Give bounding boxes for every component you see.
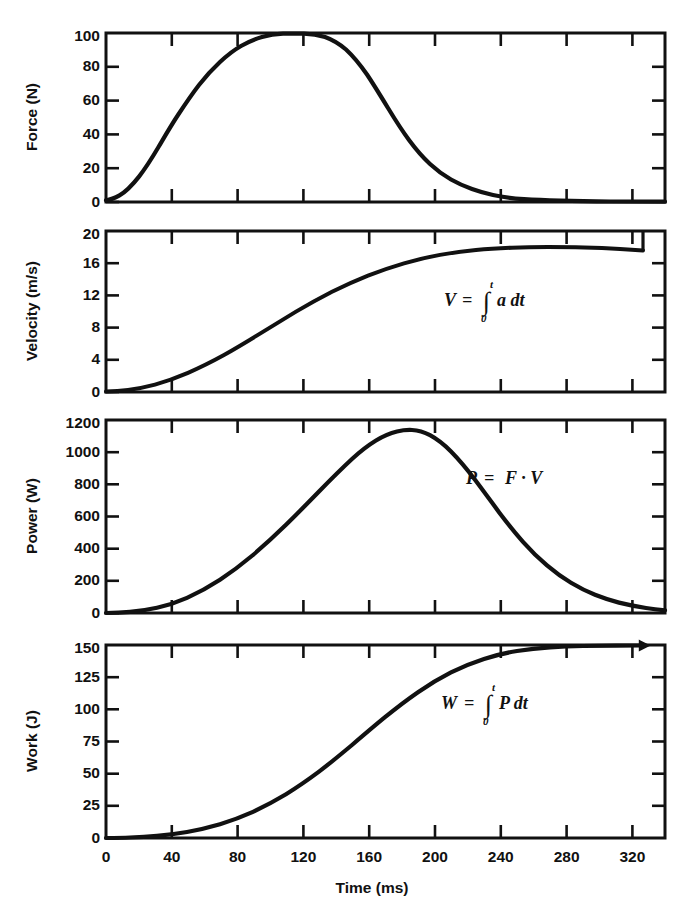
panel-power-ytick-400: 400 <box>74 539 100 556</box>
panel-velocity-x-ticks <box>172 231 633 392</box>
panel-work-ytick-75: 75 <box>83 732 101 749</box>
panel-power-frame <box>106 420 665 613</box>
work-equation: W = ∫ t 0 P dt <box>441 681 529 727</box>
velocity-eq-lower-limit: 0 <box>481 312 487 324</box>
panel-force-ytick-0: 0 <box>91 193 100 210</box>
panel-power-x-ticks <box>172 420 633 613</box>
x-axis-title: Time (ms) <box>336 879 409 896</box>
panel-force-y-ticks <box>106 67 665 202</box>
work-eq-upper-limit: t <box>492 681 496 693</box>
panel-velocity-ytick-4: 4 <box>91 350 100 367</box>
velocity-eq-lhs: V <box>444 290 458 310</box>
panel-power-ylabel: Power (W) <box>23 478 40 554</box>
panel-work-ytick-50: 50 <box>83 764 100 781</box>
xtick-240: 240 <box>488 848 514 865</box>
four-panel-plot-svg: 0 20 40 60 80 100 Force (N) <box>0 0 699 920</box>
panel-power: 0 200 400 600 800 1000 1200 Power (W) P … <box>23 414 665 621</box>
panel-velocity-ytick-0: 0 <box>91 383 100 400</box>
xtick-0: 0 <box>102 848 111 865</box>
power-eq-equals: = <box>484 468 494 488</box>
panel-force: 0 20 40 60 80 100 Force (N) <box>23 27 665 210</box>
work-eq-lower-limit: 0 <box>483 715 489 727</box>
work-eq-integrand: P dt <box>498 693 529 713</box>
velocity-equation: V = ∫ t 0 a dt <box>444 278 526 324</box>
panel-work-frame <box>106 645 665 838</box>
panel-power-ytick-800: 800 <box>74 475 100 492</box>
panel-velocity-frame <box>106 231 665 392</box>
xtick-120: 120 <box>290 848 316 865</box>
power-equation: P = F · V <box>465 468 544 488</box>
panel-force-ytick-60: 60 <box>83 91 100 108</box>
panel-work-ytick-0: 0 <box>91 829 100 846</box>
xtick-280: 280 <box>554 848 580 865</box>
panel-velocity-ytick-20: 20 <box>83 225 100 242</box>
panel-work-ytick-125: 125 <box>74 668 100 685</box>
power-eq-rhs: F · V <box>504 468 544 488</box>
panel-velocity: 0 4 8 12 16 20 Velocity (m/s) V = ∫ t 0 … <box>23 225 665 400</box>
panel-work-ytick-150: 150 <box>74 639 100 656</box>
panel-power-ytick-600: 600 <box>74 507 100 524</box>
work-eq-equals: = <box>464 693 474 713</box>
physics-figure: 0 20 40 60 80 100 Force (N) <box>0 0 699 920</box>
power-eq-lhs: P <box>465 468 478 488</box>
panel-velocity-ytick-8: 8 <box>91 318 100 335</box>
xtick-160: 160 <box>356 848 382 865</box>
panel-force-x-ticks <box>172 33 633 202</box>
xtick-40: 40 <box>163 848 180 865</box>
panel-work-ytick-100: 100 <box>74 700 100 717</box>
panel-power-ytick-200: 200 <box>74 571 100 588</box>
panel-power-ytick-1200: 1200 <box>66 414 100 431</box>
force-curve <box>106 34 665 202</box>
x-axis: 0 40 80 120 160 200 240 280 320 Time (ms… <box>102 848 646 896</box>
panel-power-ytick-0: 0 <box>91 604 100 621</box>
xtick-200: 200 <box>422 848 448 865</box>
velocity-curve <box>106 247 643 392</box>
velocity-eq-upper-limit: t <box>490 278 494 290</box>
panel-force-frame <box>106 33 665 202</box>
xtick-320: 320 <box>619 848 645 865</box>
work-end-arrow-icon <box>628 642 648 650</box>
panel-velocity-ylabel: Velocity (m/s) <box>23 261 40 361</box>
panel-velocity-ytick-12: 12 <box>83 286 100 303</box>
panel-force-ytick-40: 40 <box>83 125 100 142</box>
work-eq-lhs: W <box>441 693 459 713</box>
panel-work-x-ticks <box>172 645 633 838</box>
panel-work-ylabel: Work (J) <box>23 710 40 772</box>
panel-work: 0 25 50 75 100 125 150 Work (J) W = ∫ t … <box>23 639 665 846</box>
velocity-eq-equals: = <box>462 290 472 310</box>
panel-force-ylabel: Force (N) <box>23 83 40 151</box>
xtick-80: 80 <box>229 848 246 865</box>
panel-velocity-ytick-16: 16 <box>83 254 101 271</box>
velocity-eq-integrand: a dt <box>497 290 526 310</box>
panel-force-ytick-20: 20 <box>83 159 100 176</box>
work-curve <box>106 646 640 839</box>
panel-work-ytick-25: 25 <box>83 796 101 813</box>
panel-force-ytick-100: 100 <box>74 27 100 44</box>
panel-power-ytick-1000: 1000 <box>66 443 100 460</box>
panel-force-ytick-80: 80 <box>83 57 100 74</box>
panel-work-y-ticks <box>106 677 665 838</box>
power-curve <box>106 430 665 613</box>
